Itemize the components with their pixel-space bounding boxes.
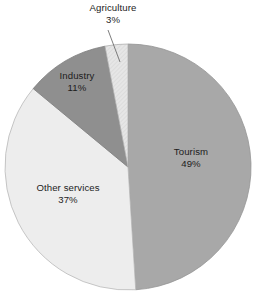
pie-chart: Agriculture 3% Industry 11% Tourism 49% … [0,0,256,306]
pie-chart-svg [0,0,256,306]
pie-slice-tourism [128,44,251,290]
